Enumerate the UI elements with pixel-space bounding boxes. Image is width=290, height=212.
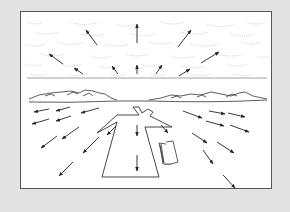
flow-arrow <box>209 111 225 114</box>
flow-arrow <box>156 65 162 74</box>
flow-arrow <box>41 136 57 148</box>
flow-arrow <box>206 121 224 126</box>
flow-arrow <box>34 109 49 112</box>
mountain-range <box>29 90 267 102</box>
flow-arrow <box>183 111 202 118</box>
flow-arrow <box>56 107 70 111</box>
flow-arrow <box>83 137 99 153</box>
flow-arrow <box>223 175 235 188</box>
sky-flow-arrows <box>49 24 219 76</box>
flow-arrow <box>178 30 191 47</box>
flow-arrow <box>59 162 73 176</box>
flow-arrow <box>74 68 83 74</box>
cloud-layer <box>25 22 269 76</box>
flow-arrow <box>228 113 245 117</box>
diagram-panel <box>20 11 272 189</box>
flow-arrow <box>179 69 190 76</box>
flow-arrow <box>192 133 207 143</box>
flow-arrow <box>86 30 97 45</box>
runway <box>97 107 172 177</box>
flow-arrow <box>62 127 79 139</box>
flow-arrow <box>56 116 71 121</box>
flow-arrow <box>201 52 219 63</box>
flow-arrow <box>32 119 49 124</box>
flow-arrow <box>203 150 213 164</box>
hangar <box>159 141 178 164</box>
flow-arrow <box>217 142 234 153</box>
flow-arrow <box>230 125 249 132</box>
optical-flow-illustration <box>21 12 273 190</box>
flow-arrow <box>81 108 99 113</box>
